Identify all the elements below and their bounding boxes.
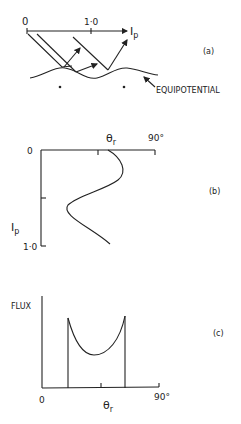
panel-c-origin: 0	[39, 395, 45, 405]
theta-label-c: θr	[103, 399, 114, 414]
theta-max-label-c: 90°	[154, 392, 170, 402]
theta-label: θr	[106, 132, 117, 147]
panel-c: FLUX 0 90° θr (c)	[11, 296, 224, 414]
theta-vs-ip-curve	[67, 150, 123, 244]
trajectory-1-out	[64, 48, 80, 67]
panel-a-label: (a)	[203, 47, 214, 56]
flux-curve	[68, 316, 125, 355]
figure: 0 1·0 Ip EQUIPOTENTIAL (a) 0 θr 90° 1·0 …	[0, 0, 241, 424]
panel-b: 0 θr 90° 1·0 Ip (b)	[11, 132, 220, 252]
flux-label: FLUX	[11, 302, 32, 311]
panel-b-origin: 0	[27, 146, 33, 156]
panel-c-label: (c)	[213, 329, 224, 338]
axis-var-label: Ip	[130, 25, 138, 40]
atom-dot-2	[123, 86, 126, 89]
panel-a-origin: 0	[22, 16, 28, 27]
equipotential-surface	[30, 68, 158, 79]
equipotential-leader	[144, 77, 155, 87]
trajectory-2-out	[76, 64, 97, 72]
atom-dot-1	[59, 86, 62, 89]
theta-max-label: 90°	[148, 133, 164, 143]
trajectory-2-in	[37, 34, 76, 72]
trajectory-3-out	[108, 40, 127, 70]
ip-max-label: 1·0	[23, 242, 38, 252]
axis-tick-label: 1·0	[84, 17, 99, 27]
panel-a: 0 1·0 Ip EQUIPOTENTIAL (a)	[22, 16, 220, 95]
equipotential-label: EQUIPOTENTIAL	[156, 86, 220, 95]
ip-label: Ip	[11, 221, 19, 236]
panel-b-label: (b)	[209, 187, 220, 196]
trajectory-3-in	[73, 37, 108, 70]
